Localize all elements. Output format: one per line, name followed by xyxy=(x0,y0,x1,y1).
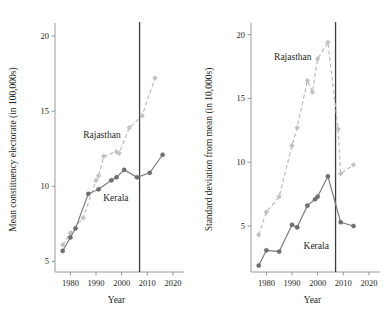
data-point-kerala xyxy=(122,168,126,172)
chart-svg-left: 510152019801990200020102020RajasthanKera… xyxy=(0,0,196,322)
figure-container: 510152019801990200020102020RajasthanKera… xyxy=(0,0,392,322)
x-tick-label: 2010 xyxy=(139,278,156,288)
data-point-rajasthan xyxy=(351,162,356,167)
y-tick-label: 5 xyxy=(45,256,49,266)
series-line-rajasthan xyxy=(63,78,155,245)
series-annotation-kerala: Kerala xyxy=(304,241,330,251)
data-point-kerala xyxy=(295,225,299,229)
y-tick-label: 20 xyxy=(237,30,246,40)
y-axis-title: Mean constituency electorate (in 100,000… xyxy=(8,67,19,231)
x-tick-label: 1990 xyxy=(88,278,105,288)
y-tick-label: 20 xyxy=(41,31,50,41)
data-point-kerala xyxy=(135,175,139,179)
chart-panel-left: 510152019801990200020102020RajasthanKera… xyxy=(0,0,196,322)
data-point-rajasthan xyxy=(290,143,295,148)
y-tick-label: 10 xyxy=(41,181,50,191)
x-tick-label: 1980 xyxy=(258,278,275,288)
data-point-kerala xyxy=(148,171,152,175)
series-annotation-kerala: Kerala xyxy=(103,193,129,203)
data-point-kerala xyxy=(73,226,77,230)
data-point-rajasthan xyxy=(140,113,145,118)
data-point-kerala xyxy=(257,264,261,268)
data-point-rajasthan xyxy=(94,178,99,183)
data-point-rajasthan xyxy=(336,127,341,132)
x-axis-title: Year xyxy=(304,295,322,305)
data-point-kerala xyxy=(351,224,355,228)
data-point-kerala xyxy=(96,187,100,191)
data-point-kerala xyxy=(86,192,90,196)
data-point-kerala xyxy=(290,223,294,227)
data-point-kerala xyxy=(161,153,165,157)
y-tick-label: 15 xyxy=(41,106,50,116)
data-point-kerala xyxy=(61,249,65,253)
y-tick-label: 10 xyxy=(237,157,246,167)
data-point-kerala xyxy=(316,195,320,199)
x-tick-label: 2000 xyxy=(113,278,130,288)
data-point-kerala xyxy=(305,204,309,208)
data-point-kerala xyxy=(326,174,330,178)
chart-panel-right: 510152019801990200020102020RajasthanKera… xyxy=(196,0,392,322)
data-point-kerala xyxy=(114,175,118,179)
series-annotation-rajasthan: Rajasthan xyxy=(274,52,312,62)
x-axis-title: Year xyxy=(108,295,126,305)
series-annotation-rajasthan: Rajasthan xyxy=(83,130,121,140)
y-tick-label: 15 xyxy=(237,93,246,103)
data-point-rajasthan xyxy=(295,125,300,130)
data-point-kerala xyxy=(68,235,72,239)
data-point-rajasthan xyxy=(101,154,106,159)
chart-svg-right: 510152019801990200020102020RajasthanKera… xyxy=(196,0,392,322)
data-point-kerala xyxy=(277,249,281,253)
x-tick-label: 2010 xyxy=(335,278,352,288)
data-point-kerala xyxy=(264,248,268,252)
data-point-kerala xyxy=(339,220,343,224)
data-point-rajasthan xyxy=(256,233,261,238)
data-point-rajasthan xyxy=(96,173,101,178)
data-point-rajasthan xyxy=(310,90,315,95)
x-tick-label: 2000 xyxy=(309,278,326,288)
data-point-rajasthan xyxy=(305,78,310,83)
x-tick-label: 2020 xyxy=(360,278,377,288)
x-tick-label: 1980 xyxy=(62,278,79,288)
data-point-rajasthan xyxy=(153,76,158,81)
x-tick-label: 2020 xyxy=(164,278,181,288)
y-tick-label: 5 xyxy=(241,221,245,231)
data-point-kerala xyxy=(109,178,113,182)
data-point-rajasthan xyxy=(81,215,86,220)
x-tick-label: 1990 xyxy=(284,278,301,288)
y-axis-title: Standard deviation from mean (in 10,000s… xyxy=(204,68,215,232)
